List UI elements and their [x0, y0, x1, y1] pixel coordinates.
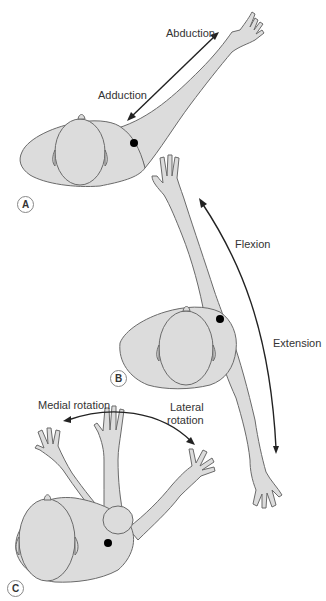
extension-arrowhead	[273, 446, 279, 454]
label-flexion: Flexion	[235, 238, 270, 251]
panel-a-badge: A	[17, 196, 34, 213]
label-medial-rotation: Medial rotation	[38, 399, 110, 412]
panel-b-nose	[183, 307, 190, 312]
label-rotation: rotation	[167, 414, 204, 427]
label-extension: Extension	[273, 337, 321, 350]
flexion-arrowhead	[199, 198, 207, 208]
shoulder-movement-diagram	[0, 0, 326, 601]
panel-c-arm-neutral	[94, 406, 124, 518]
label-abduction: Abduction	[166, 27, 215, 40]
panel-c-figure	[16, 406, 215, 582]
panel-c-badge: C	[7, 580, 24, 597]
label-lateral: Lateral	[170, 401, 204, 414]
panel-c-arm-lateral	[128, 449, 215, 540]
panel-b-head	[159, 311, 213, 385]
panel-b-arm-flexed	[152, 155, 224, 318]
panel-b-joint-marker	[216, 315, 224, 323]
panel-a-head	[55, 119, 105, 185]
label-adduction: Adduction	[98, 89, 147, 102]
medial-rotation-arrowhead	[63, 416, 71, 423]
panel-c-nose	[44, 495, 51, 500]
panel-a-nose	[78, 115, 85, 120]
panel-c-upper-arm-neutral	[103, 506, 133, 534]
panel-c-joint-marker	[104, 539, 112, 547]
panel-a-joint-marker	[130, 139, 138, 147]
panel-b-badge: B	[110, 370, 127, 387]
panel-c-head	[19, 499, 75, 581]
